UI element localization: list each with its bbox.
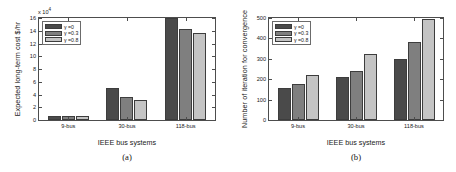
legend-swatch-series-2 — [45, 37, 62, 42]
y-tick-mark — [212, 56, 215, 57]
legend-swatch-series-0 — [45, 24, 62, 29]
bar — [134, 100, 147, 120]
bar — [422, 19, 435, 120]
panel-a-plot-area: γ =0 γ =0.3 γ =0.8 02468101214169-bus30-… — [38, 17, 216, 121]
x-tick-mark — [186, 18, 187, 21]
y-tick-mark — [440, 38, 443, 39]
y-tick-mark — [212, 31, 215, 32]
panel-b-y-axis-title: Number of iteration for convergence — [240, 4, 254, 134]
legend-label-series-1: γ =0.3 — [294, 30, 308, 36]
y-tick-mark — [212, 69, 215, 70]
bar-group — [385, 18, 443, 120]
x-tick-mark — [127, 18, 128, 21]
bar — [48, 116, 61, 120]
bar — [106, 88, 119, 121]
legend-item: γ =0.3 — [275, 30, 308, 36]
y-tick-label: 12 — [30, 41, 39, 47]
legend-label-series-0: γ =0 — [64, 24, 74, 30]
y-tick-mark — [440, 18, 443, 19]
y-tick-label: 500 — [257, 15, 269, 21]
x-tick-label: 30-bus — [118, 123, 135, 129]
legend-swatch-series-0 — [275, 24, 292, 29]
bar — [394, 59, 407, 120]
bar — [179, 29, 192, 120]
y-tick-mark — [440, 59, 443, 60]
y-tick-mark — [269, 100, 272, 101]
y-tick-label: 14 — [30, 28, 39, 34]
y-tick-mark — [212, 95, 215, 96]
y-tick-mark — [212, 18, 215, 19]
bar — [165, 18, 178, 120]
legend-label-series-2: γ =0.8 — [294, 37, 308, 43]
y-tick-mark — [39, 107, 42, 108]
panel-a-legend: γ =0 γ =0.3 γ =0.8 — [42, 21, 81, 45]
bar-group — [98, 18, 157, 120]
panel-b-caption: (b) — [268, 152, 444, 162]
y-tick-mark — [39, 95, 42, 96]
panel-a-x-axis-title: IEEE bus systems — [38, 138, 216, 147]
figure-two-panel-bar-charts: Expected long-term cost $/hr x 104 γ =0 … — [0, 0, 456, 172]
y-tick-mark — [212, 82, 215, 83]
y-tick-mark — [440, 100, 443, 101]
bar — [408, 42, 421, 120]
bar — [76, 116, 89, 120]
x-tick-mark — [414, 18, 415, 21]
y-tick-mark — [440, 120, 443, 121]
bar — [306, 75, 319, 120]
y-tick-mark — [269, 18, 272, 19]
y-tick-mark — [39, 18, 42, 19]
panel-a: Expected long-term cost $/hr x 104 γ =0 … — [0, 0, 228, 172]
legend-swatch-series-1 — [45, 31, 62, 36]
y-tick-label: 10 — [30, 53, 39, 59]
legend-item: γ =0.8 — [275, 37, 308, 43]
y-tick-mark — [212, 120, 215, 121]
x-tick-label: 9-bus — [291, 123, 305, 129]
y-tick-mark — [212, 107, 215, 108]
x-tick-mark — [414, 117, 415, 120]
x-tick-label: 9-bus — [61, 123, 75, 129]
y-tick-label: 400 — [257, 35, 269, 41]
legend-label-series-1: γ =0.3 — [64, 30, 78, 36]
y-tick-mark — [39, 69, 42, 70]
bar-group — [327, 18, 385, 120]
legend-swatch-series-2 — [275, 37, 292, 42]
bar-group — [156, 18, 215, 120]
panel-b: Number of iteration for convergence γ =0… — [228, 0, 456, 172]
y-tick-mark — [269, 59, 272, 60]
x-tick-mark — [68, 117, 69, 120]
bar — [292, 84, 305, 120]
y-tick-mark — [269, 79, 272, 80]
legend-swatch-series-1 — [275, 31, 292, 36]
x-tick-label: 30-bus — [347, 123, 364, 129]
panel-b-x-axis-title: IEEE bus systems — [268, 138, 444, 147]
x-tick-label: 118-bus — [176, 123, 196, 129]
x-tick-mark — [127, 117, 128, 120]
y-tick-mark — [440, 79, 443, 80]
y-tick-mark — [269, 120, 272, 121]
bar — [364, 54, 377, 120]
x-tick-mark — [298, 117, 299, 120]
x-tick-mark — [356, 117, 357, 120]
exponent-prefix: x 10 — [38, 9, 49, 15]
y-tick-mark — [39, 120, 42, 121]
y-tick-label: 200 — [257, 76, 269, 82]
legend-item: γ =0 — [275, 24, 308, 30]
panel-b-legend: γ =0 γ =0.3 γ =0.8 — [272, 21, 311, 45]
legend-item: γ =0.3 — [45, 30, 78, 36]
legend-item: γ =0 — [45, 24, 78, 30]
panel-a-caption: (a) — [38, 152, 216, 162]
panel-b-plot-area: γ =0 γ =0.3 γ =0.8 01002003004005009-bus… — [268, 17, 444, 121]
exponent-power: 4 — [49, 7, 52, 12]
y-tick-mark — [39, 56, 42, 57]
y-tick-label: 100 — [257, 97, 269, 103]
y-tick-mark — [39, 82, 42, 83]
y-tick-label: 300 — [257, 56, 269, 62]
legend-item: γ =0.8 — [45, 37, 78, 43]
bar — [193, 33, 206, 120]
x-tick-label: 118-bus — [404, 123, 424, 129]
panel-a-y-axis-exponent: x 104 — [38, 7, 51, 15]
legend-label-series-0: γ =0 — [294, 24, 304, 30]
bar — [350, 71, 363, 120]
x-tick-mark — [356, 18, 357, 21]
panel-a-y-axis-title: Expected long-term cost $/hr — [13, 6, 27, 132]
